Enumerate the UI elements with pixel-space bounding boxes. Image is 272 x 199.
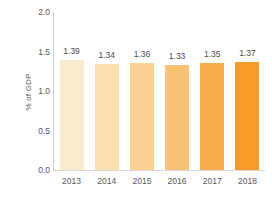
x-axis-tick-labels: 201320142015201620172018: [54, 175, 265, 189]
bar[interactable]: [130, 63, 154, 170]
plot-area: 1.391.341.361.331.351.37: [54, 12, 265, 170]
bar-group: 1.34: [89, 12, 124, 170]
y-axis-tick-label: 0.5: [26, 126, 50, 135]
x-axis-tick-label: 2018: [238, 175, 257, 187]
bar-group: 1.33: [160, 12, 195, 170]
bar[interactable]: [95, 64, 119, 170]
bar[interactable]: [165, 65, 189, 170]
y-axis-tick-label: 2.0: [26, 8, 50, 17]
bar-group: 1.36: [124, 12, 159, 170]
bar-group: 1.37: [230, 12, 265, 170]
y-axis-tick-label: 0.0: [26, 166, 50, 175]
bar[interactable]: [60, 60, 84, 170]
x-axis-tick-label: 2016: [168, 175, 187, 187]
bar-chart: % of GDP 2.01.51.00.50.0 1.391.341.361.3…: [0, 0, 272, 199]
y-axis-tick-labels: 2.01.51.00.50.0: [26, 10, 50, 172]
bar-value-label: 1.33: [169, 51, 186, 61]
bar-value-label: 1.35: [204, 49, 221, 59]
bar-value-label: 1.36: [134, 49, 151, 59]
y-axis-tick-label: 1.0: [26, 87, 50, 96]
bar[interactable]: [235, 62, 259, 170]
bar-value-label: 1.37: [239, 48, 256, 58]
bar[interactable]: [200, 63, 224, 170]
x-axis-tick-label: 2015: [132, 175, 151, 187]
bar-value-label: 1.34: [98, 50, 115, 60]
y-axis-tick-label: 1.5: [26, 47, 50, 56]
bar-value-label: 1.39: [63, 46, 80, 56]
bar-group: 1.39: [54, 12, 89, 170]
x-axis-tick-label: 2017: [203, 175, 222, 187]
x-axis-tick-label: 2013: [62, 175, 81, 187]
x-axis-tick-label: 2014: [97, 175, 116, 187]
bar-group: 1.35: [195, 12, 230, 170]
x-axis-baseline: [53, 170, 265, 171]
